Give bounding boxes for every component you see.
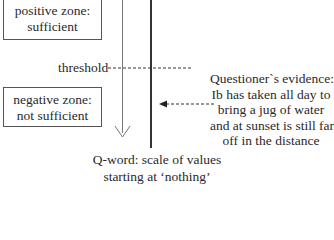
questioner-evidence: Questioner`s evidence: Ib has taken all … — [210, 71, 332, 149]
caption-line: starting at ‘nothing’ — [82, 168, 232, 185]
evidence-line: bring a jug of water — [210, 102, 332, 118]
q-word-caption: Q-word: scale of values starting at ‘not… — [82, 151, 232, 185]
left-arrow-icon — [159, 101, 167, 108]
evidence-line: Ib has taken all day to — [210, 87, 332, 103]
evidence-line: off in the distance — [210, 133, 332, 149]
caption-line: Q-word: scale of values — [82, 151, 232, 168]
down-arrow-icon — [115, 126, 130, 137]
evidence-line: Questioner`s evidence: — [210, 71, 332, 87]
evidence-line: and at sunset is still far — [210, 118, 332, 134]
threshold-label: threshold — [58, 60, 108, 76]
